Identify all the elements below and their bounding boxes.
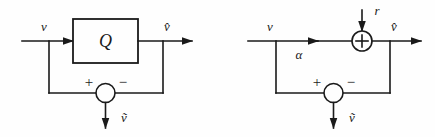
right-summer-plus-sign: + — [313, 74, 321, 90]
block-diagram-canvas: Q v v̂ + − ṽ — [0, 0, 435, 137]
figure-root: Q v v̂ + − ṽ — [0, 0, 435, 137]
right-branch-label: α — [296, 47, 304, 62]
right-error-output-label: ṽ — [349, 110, 356, 125]
left-summer-plus-sign: + — [85, 74, 93, 90]
right-input-label: v — [267, 19, 273, 34]
left-input-label: v — [41, 19, 47, 34]
right-summer-minus-sign: − — [347, 74, 355, 90]
left-output-label: v̂ — [164, 19, 170, 34]
right-output-label: v̂ — [391, 19, 397, 34]
left-summer-minus-sign: − — [119, 74, 127, 90]
left-diagram-group: Q v v̂ + − ṽ — [22, 19, 192, 128]
right-injection-label: r — [374, 3, 380, 18]
right-diagram-group: v r α v̂ + − ṽ — [248, 3, 421, 128]
left-error-output-label: ṽ — [121, 110, 128, 125]
quantizer-block-label: Q — [99, 31, 112, 51]
right-summing-junction — [324, 84, 343, 103]
left-summing-junction — [96, 84, 115, 103]
